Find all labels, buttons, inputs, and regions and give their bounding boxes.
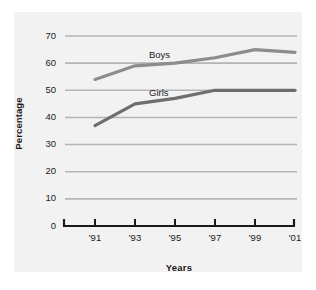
y-tick-label: 60 bbox=[30, 57, 56, 68]
y-tick-label: 20 bbox=[30, 165, 56, 176]
y-tick-label: 0 bbox=[30, 220, 56, 231]
series-line-boys bbox=[95, 50, 295, 80]
y-tick-label: 70 bbox=[30, 30, 56, 41]
y-axis-title: Percentage bbox=[13, 84, 24, 164]
series-label-boys: Boys bbox=[149, 49, 170, 60]
series-label-girls: Girls bbox=[149, 87, 169, 98]
x-tick-label: '97 bbox=[200, 232, 230, 243]
y-tick-label: 10 bbox=[30, 192, 56, 203]
chart-container: 010203040506070 '91'93'95'97'99'01 BoysG… bbox=[0, 0, 316, 290]
y-tick-label: 30 bbox=[30, 138, 56, 149]
y-tick-label: 40 bbox=[30, 111, 56, 122]
data-series-group bbox=[95, 50, 295, 126]
y-tick-label: 50 bbox=[30, 84, 56, 95]
gridlines-group bbox=[65, 36, 297, 199]
series-line-girls bbox=[95, 90, 295, 125]
x-axis-title: Years bbox=[63, 262, 295, 273]
x-tick-label: '99 bbox=[240, 232, 270, 243]
x-tick-label: '91 bbox=[80, 232, 110, 243]
x-tick-label: '95 bbox=[160, 232, 190, 243]
x-tick-label: '01 bbox=[280, 232, 310, 243]
axis-lines-group bbox=[63, 219, 295, 226]
x-tick-label: '93 bbox=[120, 232, 150, 243]
